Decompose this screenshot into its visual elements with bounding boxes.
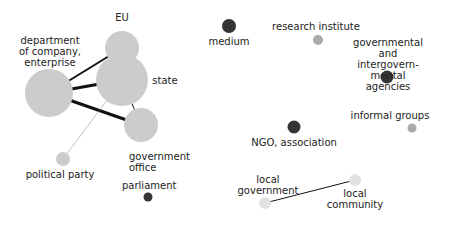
node-label-state: state [149, 75, 181, 86]
node-label-eu: EU [108, 12, 136, 23]
node-label-government-office: government office [129, 151, 195, 173]
node-label-ngo: NGO, association [246, 137, 342, 148]
node-label-department: department of company, enterprise [14, 35, 86, 68]
node-label-local-community: local community [324, 188, 386, 210]
node-informal-groups[interactable] [408, 124, 417, 133]
node-local-community[interactable] [349, 174, 361, 186]
node-label-informal-groups: informal groups [346, 110, 434, 121]
node-local-government[interactable] [259, 197, 271, 209]
node-label-political-party: political party [22, 169, 98, 180]
node-ngo[interactable] [288, 121, 301, 134]
node-department[interactable] [25, 69, 73, 117]
node-label-local-government: local government [237, 174, 299, 196]
node-label-gov-agencies: governmental and intergovern- mental age… [348, 37, 428, 92]
node-label-medium: medium [206, 36, 252, 47]
node-state[interactable] [96, 54, 148, 106]
node-government-office[interactable] [124, 108, 158, 142]
node-label-parliament: parliament [122, 180, 176, 191]
node-label-research-institute: research institute [266, 21, 366, 32]
node-parliament[interactable] [144, 193, 153, 202]
node-medium[interactable] [222, 19, 236, 33]
node-research-institute[interactable] [313, 35, 323, 45]
node-political-party[interactable] [56, 152, 70, 166]
